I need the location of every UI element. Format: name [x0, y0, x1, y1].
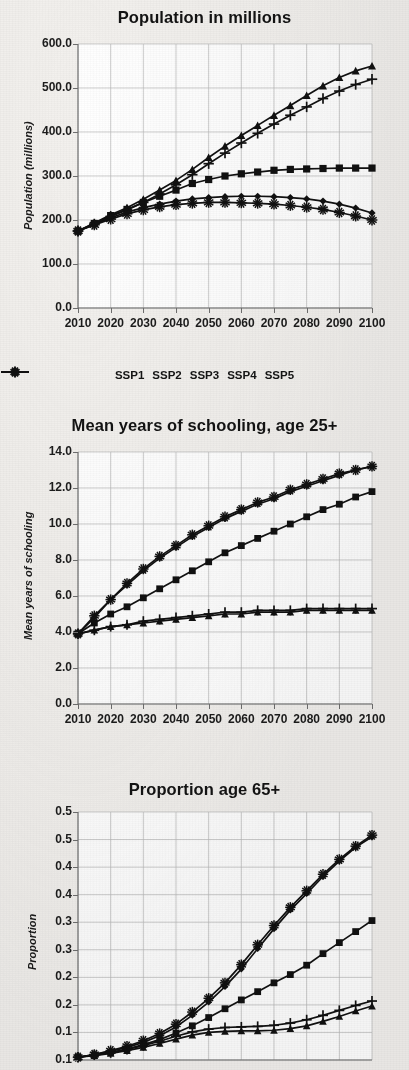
plus-marker-icon — [253, 605, 263, 615]
plus-marker-icon — [318, 93, 328, 103]
y-tick-label: 8.0 — [20, 552, 72, 566]
chart-legend: SSP1SSP2SSP3SSP4SSP5 — [0, 364, 409, 386]
square-marker-icon — [352, 928, 359, 935]
plus-marker-icon — [89, 625, 99, 635]
plot-area-population — [78, 44, 372, 308]
asterisk-marker-icon — [0, 364, 30, 380]
y-tick-mark — [73, 88, 78, 89]
square-marker-icon — [369, 488, 376, 495]
plus-marker-icon — [269, 605, 279, 615]
asterisk-marker-icon — [318, 204, 329, 215]
y-tick-mark — [73, 220, 78, 221]
square-marker-icon — [238, 542, 245, 549]
triangle-marker-icon — [303, 91, 311, 99]
x-tick-mark — [143, 308, 144, 313]
plus-marker-icon — [236, 138, 246, 148]
plus-marker-icon — [334, 1005, 344, 1015]
x-tick-mark — [307, 704, 308, 709]
square-marker-icon — [189, 567, 196, 574]
y-tick-mark — [73, 44, 78, 45]
y-tick-mark — [73, 867, 78, 868]
square-marker-icon — [254, 988, 261, 995]
y-tick-mark — [73, 132, 78, 133]
square-marker-icon — [205, 558, 212, 565]
chart-canvas-population — [78, 44, 372, 308]
x-tick-mark — [209, 308, 210, 313]
y-axis-label-schooling: Mean years of schooling — [22, 512, 34, 640]
x-tick-mark — [241, 704, 242, 709]
chart-panel-schooling: Mean years of schooling, age 25+ Mean ye… — [0, 400, 409, 760]
legend-item-ssp1: SSP1 — [115, 369, 144, 381]
y-tick-label: 4.0 — [20, 624, 72, 638]
y-tick-mark — [73, 264, 78, 265]
y-tick-mark — [73, 452, 78, 453]
plot-area-proportion — [78, 812, 372, 1060]
plus-marker-icon — [236, 607, 246, 617]
square-marker-icon — [271, 979, 278, 986]
plus-marker-icon — [302, 1015, 312, 1025]
y-tick-mark — [73, 632, 78, 633]
x-tick-mark — [111, 308, 112, 313]
diamond-marker-icon — [336, 201, 343, 208]
legend-item-ssp2: SSP2 — [152, 369, 181, 381]
y-tick-label: 500.0 — [20, 80, 72, 94]
plus-marker-icon — [285, 110, 295, 120]
x-tick-mark — [111, 704, 112, 709]
square-marker-icon — [368, 164, 375, 171]
y-tick-mark — [73, 1005, 78, 1006]
square-marker-icon — [238, 170, 245, 177]
y-tick-label: 600.0 — [20, 36, 72, 50]
y-tick-mark — [73, 176, 78, 177]
plus-marker-icon — [220, 607, 230, 617]
square-marker-icon — [107, 611, 114, 618]
square-marker-icon — [254, 535, 261, 542]
square-marker-icon — [303, 962, 310, 969]
x-tick-mark — [176, 704, 177, 709]
legend-label: SSP3 — [190, 369, 219, 381]
plus-marker-icon — [138, 616, 148, 626]
chart-title-population: Population in millions — [0, 8, 409, 27]
y-tick-label: 0.4 — [20, 859, 72, 873]
square-marker-icon — [205, 1014, 212, 1021]
asterisk-marker-icon — [350, 465, 360, 475]
y-tick-label: 0.5 — [20, 804, 72, 818]
y-tick-label: 12.0 — [20, 480, 72, 494]
square-marker-icon — [222, 1005, 229, 1012]
diamond-marker-icon — [303, 195, 310, 202]
triangle-marker-icon — [319, 82, 327, 90]
chart-canvas-proportion — [78, 812, 372, 1060]
chart-panel-population: Population in millions Population (milli… — [0, 0, 409, 400]
plus-marker-icon — [318, 1010, 328, 1020]
x-tick-mark — [372, 308, 373, 313]
square-marker-icon — [369, 917, 376, 924]
y-tick-label: 0.1 — [20, 1024, 72, 1038]
y-tick-mark — [73, 922, 78, 923]
plus-marker-icon — [187, 611, 197, 621]
plus-marker-icon — [318, 604, 328, 614]
y-tick-mark — [73, 488, 78, 489]
x-tick-mark — [339, 308, 340, 313]
asterisk-marker-icon — [301, 202, 312, 213]
y-tick-label: 0.0 — [20, 696, 72, 710]
square-marker-icon — [287, 521, 294, 528]
y-tick-label: 0.1 — [20, 1052, 72, 1066]
x-tick-mark — [78, 308, 79, 313]
y-tick-mark — [73, 895, 78, 896]
chart-title-proportion: Proportion age 65+ — [0, 780, 409, 799]
plus-marker-icon — [285, 605, 295, 615]
x-tick-mark — [307, 308, 308, 313]
legend-item-ssp5: SSP5 — [265, 369, 294, 381]
y-tick-label: 400.0 — [20, 124, 72, 138]
legend-label: SSP4 — [227, 369, 256, 381]
square-marker-icon — [336, 939, 343, 946]
square-marker-icon — [173, 576, 180, 583]
triangle-marker-icon — [254, 121, 262, 129]
chart-panel-proportion: Proportion age 65+ Proportion 0.50.50.40… — [0, 760, 409, 1070]
plot-area-schooling — [78, 452, 372, 704]
square-marker-icon — [221, 172, 228, 179]
square-marker-icon — [319, 165, 326, 172]
y-tick-mark — [73, 1032, 78, 1033]
y-tick-mark — [73, 668, 78, 669]
square-marker-icon — [352, 494, 359, 501]
square-marker-icon — [352, 164, 359, 171]
